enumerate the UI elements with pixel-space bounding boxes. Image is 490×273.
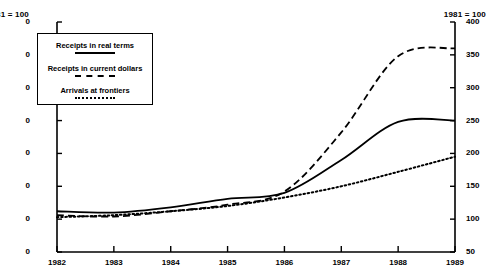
x-axis-tick-label: 1988 <box>389 258 407 267</box>
legend-line-sample-dashed <box>75 75 115 80</box>
x-axis-tick-label: 1987 <box>332 258 350 267</box>
x-axis-tick-label: 1985 <box>219 258 237 267</box>
legend-label: Receipts in current dollars <box>38 64 152 73</box>
x-axis-tick-label: 1982 <box>48 258 66 267</box>
legend-label: Receipts in real terms <box>38 41 152 50</box>
legend-item-arrivals-at-frontiers: Arrivals at frontiers <box>38 86 152 102</box>
x-axis-tick-label: 1984 <box>162 258 180 267</box>
legend-item-receipts-real-terms: Receipts in real terms <box>38 41 152 57</box>
legend-label: Arrivals at frontiers <box>38 86 152 95</box>
x-axis-tick-label: 1986 <box>276 258 294 267</box>
legend-line-sample-dotted <box>75 97 115 102</box>
chart-container: 81 = 100 1981 = 100 00000000 50100150200… <box>0 0 490 273</box>
x-axis-tick-label: 1989 <box>446 258 464 267</box>
legend-item-receipts-current-dollars: Receipts in current dollars <box>38 64 152 80</box>
legend: Receipts in real terms Receipts in curre… <box>37 33 153 105</box>
legend-line-sample-solid <box>75 52 115 57</box>
x-axis-tick-label: 1983 <box>105 258 123 267</box>
